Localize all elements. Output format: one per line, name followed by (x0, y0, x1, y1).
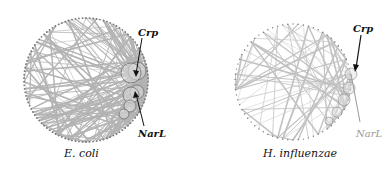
narl-label: NarL (138, 128, 166, 139)
crp-label: Crp (353, 23, 373, 34)
e-coli-network-diagram (0, 0, 193, 169)
caption-h-influenzae: H. influenzae (263, 147, 337, 160)
panel-e-coli: Crp NarL E. coli (0, 0, 193, 169)
arrow-crp-icon (353, 35, 361, 72)
crp-label: Crp (138, 27, 158, 38)
narl-label: NarL (356, 128, 382, 139)
narl-leader-line (351, 74, 360, 122)
panel-h-influenzae: Crp NarL H. influenzae (193, 0, 386, 169)
caption-e-coli: E. coli (64, 147, 99, 160)
